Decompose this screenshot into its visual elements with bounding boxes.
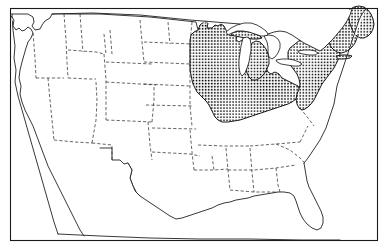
northern-border-outline xyxy=(52,14,198,30)
distribution-map-figure xyxy=(0,0,387,251)
map-canvas xyxy=(0,0,387,251)
gulf-and-florida-outline xyxy=(128,163,323,230)
west-coast-outline xyxy=(11,16,84,236)
shaded-region-long-island xyxy=(336,55,352,59)
